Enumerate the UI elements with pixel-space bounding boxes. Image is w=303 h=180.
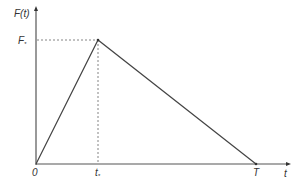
- y-axis-label: F(t): [14, 8, 30, 19]
- pulse-curve: [36, 40, 256, 164]
- end-time-label: T: [253, 167, 260, 178]
- peak-time-label: t*: [95, 167, 101, 179]
- x-axis-label: t: [284, 168, 288, 179]
- y-axis-arrow-icon: [34, 6, 38, 11]
- peak-force-label: F*: [18, 35, 27, 47]
- x-axis-arrow-icon: [286, 162, 291, 166]
- end-point: [255, 163, 258, 166]
- peak-point: [97, 39, 100, 42]
- pulse-diagram: F(t) F* 0 t* T t: [0, 0, 303, 180]
- origin-label: 0: [32, 167, 38, 178]
